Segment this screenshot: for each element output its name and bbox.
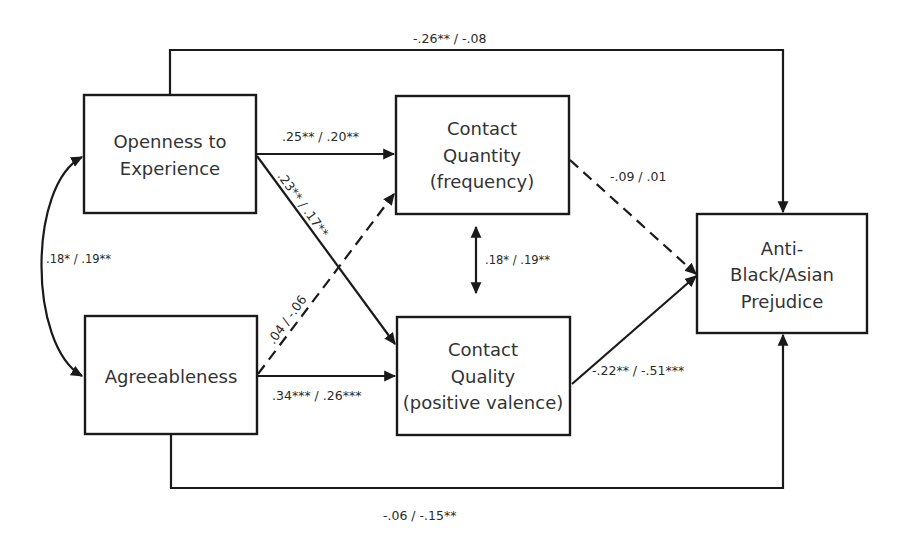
coef-agreeableness-to-prejudice: -.06 / -.15** xyxy=(383,508,456,523)
node-prejudice-line3: Prejudice xyxy=(741,291,823,312)
coef-openness-to-prejudice: -.26** / -.08 xyxy=(413,31,486,46)
node-agreeableness-line1: Agreeableness xyxy=(105,366,238,387)
node-contact-quality-line3: (positive valence) xyxy=(403,392,564,413)
node-contact-quality: Contact Quality (positive valence) xyxy=(397,317,570,435)
path-openness-to-quality: .23** / .17** xyxy=(257,156,395,344)
coef-openness-agreeableness-covariance: .18* / .19** xyxy=(46,252,111,266)
coef-quantity-quality-covariance: .18* / .19** xyxy=(485,253,550,267)
node-openness-line1: Openness to xyxy=(113,131,226,152)
node-contact-quality-line1: Contact xyxy=(448,339,518,360)
node-openness-line2: Experience xyxy=(120,158,220,179)
coef-openness-to-quality: .23** / .17** xyxy=(275,169,332,240)
path-model-diagram: -.26** / -.08 -.06 / -.15** .25** / .20*… xyxy=(0,0,902,547)
node-contact-quantity-line3: (frequency) xyxy=(430,171,534,192)
node-openness: Openness to Experience xyxy=(84,95,256,213)
path-agreeableness-to-quality: .34*** / .26*** xyxy=(256,376,395,403)
node-contact-quality-line2: Quality xyxy=(451,366,516,387)
node-prejudice-line1: Anti- xyxy=(761,238,803,259)
path-agreeableness-to-quantity: .04 / -.06 xyxy=(258,194,394,374)
path-openness-to-quantity: .25** / .20** xyxy=(256,129,394,154)
node-contact-quantity-line2: Quantity xyxy=(443,145,521,166)
node-agreeableness: Agreeableness xyxy=(85,316,257,434)
node-prejudice: Anti- Black/Asian Prejudice xyxy=(697,214,867,333)
node-contact-quantity: Contact Quantity (frequency) xyxy=(396,96,569,214)
coef-quantity-to-prejudice: -.09 / .01 xyxy=(610,169,666,184)
coef-openness-to-quantity: .25** / .20** xyxy=(282,129,359,144)
coef-agreeableness-to-quantity: .04 / -.06 xyxy=(264,292,309,347)
node-contact-quantity-line1: Contact xyxy=(447,118,517,139)
coef-quality-to-prejudice: -.22** / -.51*** xyxy=(592,363,684,378)
coef-agreeableness-to-quality: .34*** / .26*** xyxy=(272,388,361,403)
node-prejudice-line2: Black/Asian xyxy=(730,264,834,285)
path-quality-to-prejudice: -.22** / -.51*** xyxy=(572,276,696,384)
path-quantity-to-prejudice: -.09 / .01 xyxy=(570,160,696,274)
path-quantity-quality-covariance: .18* / .19** xyxy=(476,227,550,293)
